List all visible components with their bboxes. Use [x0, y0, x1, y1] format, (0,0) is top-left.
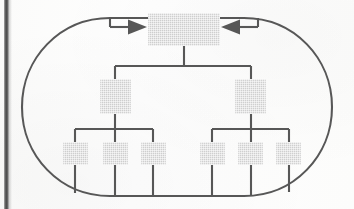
node-leaf-b2[interactable] [238, 142, 263, 165]
node-level2-left[interactable] [100, 79, 131, 114]
node-leaf-a1-label [63, 142, 88, 165]
node-root[interactable] [148, 13, 220, 46]
node-leaf-a2-label [103, 142, 128, 165]
arrowhead-left-inbound [110, 20, 147, 35]
node-leaf-a2[interactable] [103, 142, 128, 165]
arrowhead-right-inbound [221, 20, 258, 35]
scanned-page [0, 0, 354, 209]
node-leaf-b1-label [200, 142, 225, 165]
node-level2-right-label [235, 79, 266, 114]
node-leaf-a1[interactable] [63, 142, 88, 165]
node-leaf-b3[interactable] [276, 142, 301, 165]
node-leaf-b3-label [276, 142, 301, 165]
node-leaf-b2-label [238, 142, 263, 165]
node-level2-right[interactable] [235, 79, 266, 114]
tree-edges-right-subtree [212, 114, 289, 142]
node-level2-left-label [100, 79, 131, 114]
tree-edges-left-subtree [75, 114, 153, 142]
tree-edges-leaves-to-loop [75, 165, 289, 196]
node-leaf-a3[interactable] [141, 142, 166, 165]
tree-edges-level-1-2 [115, 46, 251, 79]
node-leaf-b1[interactable] [200, 142, 225, 165]
node-leaf-a3-label [141, 142, 166, 165]
node-root-label [148, 13, 220, 46]
